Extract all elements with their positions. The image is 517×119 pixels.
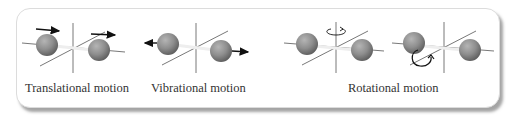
arrow-right-icon: [36, 29, 59, 31]
label-vibrational-motion: Vibrational motion: [151, 81, 246, 96]
atom-sphere: [351, 39, 373, 61]
rotational-molecule-horizontal-axis: [392, 22, 494, 73]
atom-sphere: [88, 39, 110, 61]
arrow-right-icon: [91, 34, 115, 35]
atom-sphere: [157, 33, 179, 55]
vibrational-molecule: [145, 23, 248, 73]
atom-sphere: [210, 40, 232, 62]
atom-sphere: [459, 39, 481, 61]
atom-sphere: [36, 34, 58, 56]
translational-molecule: [22, 23, 125, 73]
label-translational-motion: Translational motion: [25, 81, 129, 96]
atom-sphere: [403, 32, 425, 54]
molecular-motion-diagram: [0, 0, 517, 119]
arrow-right-icon: [232, 51, 248, 52]
rotational-molecule-vertical-axis: [284, 22, 384, 73]
label-rotational-motion: Rotational motion: [348, 81, 439, 96]
atom-sphere: [296, 33, 318, 55]
